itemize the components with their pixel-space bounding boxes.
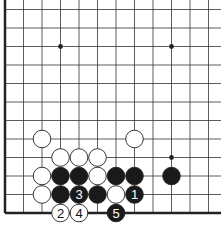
- go-board: 31245: [0, 0, 221, 227]
- black-stone: 5: [107, 204, 125, 222]
- black-stone: [107, 167, 125, 185]
- black-stone: 1: [126, 186, 144, 204]
- white-stone: [89, 167, 107, 185]
- star-point-icon: [58, 44, 63, 49]
- white-stone: [126, 130, 144, 148]
- black-stone: [70, 167, 88, 185]
- white-stone: [33, 130, 51, 148]
- white-stone: 4: [70, 204, 88, 222]
- star-point-icon: [169, 44, 174, 49]
- black-stone: [52, 167, 70, 185]
- move-number-label: 4: [75, 206, 82, 221]
- black-stone: [163, 167, 181, 185]
- black-stone: 3: [70, 186, 88, 204]
- move-number-label: 2: [57, 206, 64, 221]
- white-stone: [70, 149, 88, 167]
- star-point-icon: [169, 155, 174, 160]
- black-stone: [126, 167, 144, 185]
- black-stone: [89, 186, 107, 204]
- white-stone: [89, 149, 107, 167]
- white-stone: [33, 186, 51, 204]
- white-stone: [33, 167, 51, 185]
- white-stone: [107, 186, 125, 204]
- move-number-label: 3: [75, 187, 82, 202]
- move-number-label: 1: [131, 187, 138, 202]
- black-stone: [52, 186, 70, 204]
- move-number-label: 5: [112, 206, 119, 221]
- white-stone: [52, 149, 70, 167]
- white-stone: 2: [52, 204, 70, 222]
